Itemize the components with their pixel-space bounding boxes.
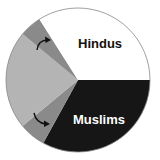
slice-label-muslims: Muslims xyxy=(73,112,125,127)
pie-slices xyxy=(6,8,150,152)
slice-label-hindus: Hindus xyxy=(78,36,122,51)
pie-chart: Hindus Muslims xyxy=(0,0,160,160)
